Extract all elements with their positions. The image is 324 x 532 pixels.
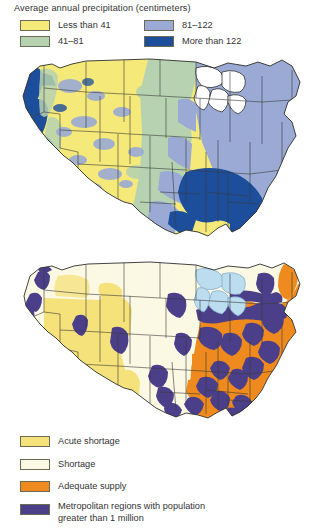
swatch-adequate-supply: [20, 481, 50, 492]
swatch-more-than-122: [144, 36, 174, 47]
legend-label-81-122: 81–122: [182, 20, 213, 31]
swatch-41-81: [20, 36, 50, 47]
legend-label-less-than-41: Less than 41: [58, 20, 111, 31]
legend-label-shortage: Shortage: [58, 459, 95, 470]
figure-two-us-maps: Average annual precipitation (centimeter…: [0, 0, 324, 532]
legend-item-less-than-41: Less than 41: [20, 20, 111, 31]
legend-item-adequate-supply: Adequate supply: [20, 481, 126, 492]
legend-label-more-than-122: More than 122: [182, 36, 241, 47]
legend-item-41-81: 41–81: [20, 36, 84, 47]
legend-label-41-81: 41–81: [58, 36, 84, 47]
precipitation-map: [0, 52, 324, 257]
swatch-less-than-41: [20, 20, 50, 31]
precipitation-legend-title: Average annual precipitation (centimeter…: [14, 3, 191, 13]
swatch-shortage: [20, 459, 50, 470]
legend-item-81-122: 81–122: [144, 20, 213, 31]
legend-item-metropolitan-regions: Metropolitan regions with population gre…: [20, 503, 205, 524]
legend-item-more-than-122: More than 122: [144, 36, 241, 47]
legend-label-acute-shortage: Acute shortage: [58, 436, 120, 447]
legend-label-adequate-supply: Adequate supply: [58, 481, 126, 492]
swatch-81-122: [144, 20, 174, 31]
swatch-acute-shortage: [20, 436, 50, 447]
legend-item-acute-shortage: Acute shortage: [20, 436, 120, 447]
swatch-metropolitan-regions: [20, 504, 50, 515]
legend-label-metropolitan-regions: Metropolitan regions with population gre…: [58, 501, 205, 524]
legend-item-shortage: Shortage: [20, 459, 95, 470]
water-supply-map: [0, 258, 324, 438]
